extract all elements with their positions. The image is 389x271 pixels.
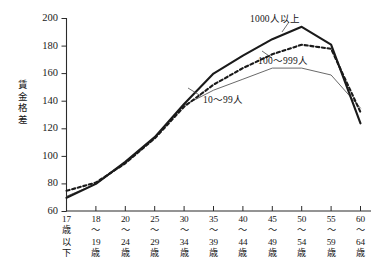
series-annotation-10-99: 10〜99人 <box>203 92 243 106</box>
y-axis-title-char: 金 <box>16 92 30 104</box>
x-axis-label-line: 歳 <box>85 248 107 259</box>
x-axis-label-line: 44 <box>232 237 254 248</box>
y-tick-label: 120 <box>42 122 58 133</box>
x-axis-label-line: 歳 <box>261 248 283 259</box>
x-axis-label: 30〜34歳 <box>173 214 195 260</box>
x-axis-label-line: 歳 <box>173 248 195 259</box>
x-axis-label-line: 55 <box>320 214 342 225</box>
series-annotation-100-999: 100〜999人 <box>258 53 308 67</box>
x-axis-label-line: 歳 <box>144 248 166 259</box>
x-axis-label-line: 45 <box>261 214 283 225</box>
x-axis-label-line: 歳 <box>350 248 372 259</box>
x-axis-label-line: 50 <box>291 214 313 225</box>
x-axis-label-line: 39 <box>203 237 225 248</box>
x-axis-label: 40〜44歳 <box>232 214 254 260</box>
x-axis-label-line: 29 <box>144 237 166 248</box>
x-axis-label-line: 歳 <box>291 248 313 259</box>
wage-differential-line-chart: 200 180 160 140 120 100 80 60 <box>0 0 389 271</box>
series-line-10-99 <box>67 68 361 196</box>
x-axis-label-line: 24 <box>114 237 136 248</box>
x-axis-label-line: 以 <box>56 237 78 248</box>
x-axis-label: 20〜24歳 <box>114 214 136 260</box>
x-axis-label-line: 歳 <box>114 248 136 259</box>
x-axis-label-line: 19 <box>85 237 107 248</box>
x-axis-label-line: 〜 <box>261 225 283 236</box>
x-axis-label-line: 30 <box>173 214 195 225</box>
x-axis-label-line: 〜 <box>232 225 254 236</box>
x-axis-label: 55〜59歳 <box>320 214 342 260</box>
x-axis-label: 25〜29歳 <box>144 214 166 260</box>
x-axis-label: 45〜49歳 <box>261 214 283 260</box>
y-tick-marks <box>62 19 67 212</box>
x-axis-label-line: 〜 <box>320 225 342 236</box>
series-line-1000-plus <box>67 27 361 198</box>
x-axis-label-line: 17 <box>56 214 78 225</box>
x-axis-label-line: 49 <box>261 237 283 248</box>
x-axis-label-line: 歳 <box>320 248 342 259</box>
series-annotation-1000-plus: 1000人以上 <box>250 11 300 25</box>
x-axis-label-line: 〜 <box>203 225 225 236</box>
x-axis-label-line: 40 <box>232 214 254 225</box>
x-axis-label-line: 60 <box>350 214 372 225</box>
y-tick-label: 80 <box>48 177 59 188</box>
y-tick-label: 100 <box>42 150 58 161</box>
x-axis-label-line: 35 <box>203 214 225 225</box>
x-axis-label: 50〜54歳 <box>291 214 313 260</box>
x-axis-label-line: 18 <box>85 214 107 225</box>
y-axis-title-char: 格 <box>16 103 30 115</box>
x-axis-label-line: 〜 <box>291 225 313 236</box>
x-axis-label-line: 〜 <box>173 225 195 236</box>
y-tick-label: 140 <box>42 95 58 106</box>
x-axis-label-line: 34 <box>173 237 195 248</box>
x-axis-label-line: 下 <box>56 248 78 259</box>
x-axis-label: 35〜39歳 <box>203 214 225 260</box>
y-tick-label: 160 <box>42 67 58 78</box>
y-tick-label: 200 <box>42 12 58 23</box>
x-axis-labels: 17歳以下18〜19歳20〜24歳25〜29歳30〜34歳35〜39歳40〜44… <box>0 214 389 271</box>
y-tick-label: 180 <box>42 40 58 51</box>
x-axis-label-line: 歳 <box>203 248 225 259</box>
x-axis-label-line: 〜 <box>144 225 166 236</box>
x-tick-marks <box>67 206 361 211</box>
x-axis-label-line: 〜 <box>114 225 136 236</box>
series-line-100-999 <box>67 45 361 191</box>
x-axis-label-line: 64 <box>350 237 372 248</box>
x-axis-label-line: 歳 <box>56 225 78 236</box>
x-axis-label-line: 54 <box>291 237 313 248</box>
x-axis-label-line: 25 <box>144 214 166 225</box>
y-axis-title: 賃 金 格 差 <box>16 80 30 126</box>
x-axis-label-line: 歳 <box>232 248 254 259</box>
x-axis-label: 17歳以下 <box>56 214 78 260</box>
x-axis-label-line: 20 <box>114 214 136 225</box>
y-axis-title-char: 賃 <box>16 80 30 92</box>
y-tick-labels: 200 180 160 140 120 100 80 60 <box>42 12 58 216</box>
x-axis-label: 18〜19歳 <box>85 214 107 260</box>
y-axis-title-char: 差 <box>16 115 30 127</box>
x-axis-label-line: 59 <box>320 237 342 248</box>
x-axis-label-line: 〜 <box>85 225 107 236</box>
x-axis-label: 60〜64歳 <box>350 214 372 260</box>
x-axis-label-line: 〜 <box>350 225 372 236</box>
